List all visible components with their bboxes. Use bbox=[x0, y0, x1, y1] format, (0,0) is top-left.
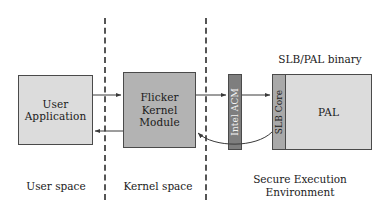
user-kernel-divider bbox=[104, 18, 106, 200]
diagram-canvas: User Application Flicker Kernel Module I… bbox=[0, 0, 388, 220]
slb-core-label: SLB Core bbox=[274, 90, 284, 134]
user-space-caption: User space bbox=[10, 180, 102, 193]
kernel-secure-divider bbox=[205, 18, 207, 200]
intel-acm-box: Intel ACM bbox=[228, 74, 242, 150]
flicker-kernel-module-label: Flicker Kernel Module bbox=[139, 91, 180, 129]
secure-execution-environment-caption: Secure Execution Environment bbox=[225, 173, 375, 199]
user-application-label: User Application bbox=[25, 98, 87, 123]
slb-core-box: SLB Core bbox=[272, 74, 285, 150]
flicker-kernel-module-box: Flicker Kernel Module bbox=[123, 72, 196, 148]
slb-pal-binary-caption: SLB/PAL binary bbox=[255, 53, 385, 66]
user-application-box: User Application bbox=[18, 75, 93, 145]
pal-box: PAL bbox=[285, 74, 372, 150]
intel-acm-label: Intel ACM bbox=[230, 88, 240, 136]
pal-label: PAL bbox=[318, 106, 339, 119]
kernel-space-caption: Kernel space bbox=[112, 180, 204, 193]
